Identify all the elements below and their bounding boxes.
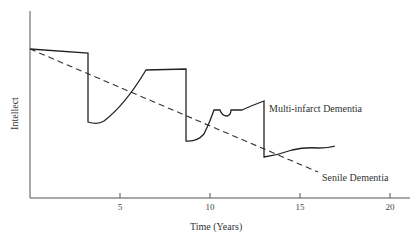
multi-infarct-annotation: Multi-infarct Dementia: [269, 103, 362, 114]
senile-dementia-annotation: Senile Dementia: [322, 172, 388, 183]
y-axis-label: Intellect: [9, 97, 20, 130]
x-tick-label-5: 5: [118, 202, 123, 212]
x-axis-label: Time (Years): [190, 221, 242, 232]
x-tick-label-10: 10: [206, 202, 215, 212]
x-tick-label-15: 15: [296, 202, 305, 212]
x-tick-label-20: 20: [386, 202, 395, 212]
